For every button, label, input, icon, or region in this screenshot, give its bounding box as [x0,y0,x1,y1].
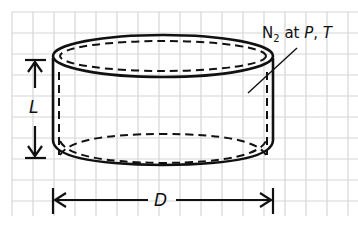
inner-top-rim [60,41,266,71]
diameter-label: D [154,192,167,209]
inner-bottom-back-rim [60,134,266,155]
cylinder-inner-wall [59,41,267,163]
gas-formula: N [262,24,273,42]
cylinder-bottom-rim [53,140,273,165]
gas-separator: , [313,24,323,42]
gas-label: N2 at P, T [262,26,332,44]
temperature-symbol: T [323,24,332,42]
pressure-symbol: P [304,24,313,42]
gas-at-text: at [280,24,305,42]
length-label: L [29,99,38,116]
